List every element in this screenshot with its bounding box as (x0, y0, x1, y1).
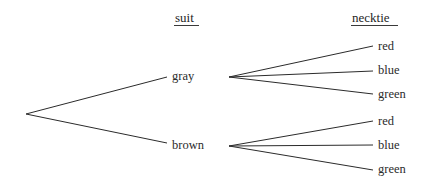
node-label-brown: brown (172, 139, 204, 152)
node-label-gray: gray (172, 70, 194, 83)
edge-root-to-brown (26, 114, 167, 143)
tree-edges (0, 0, 438, 188)
column-header-suit-underline (174, 25, 199, 26)
edge-brown-to-green (229, 146, 373, 170)
edge-brown-to-red (229, 121, 373, 146)
tree-diagram-canvas: suit necktie gray brown red blue green r… (0, 0, 438, 188)
node-label-gray-green: green (378, 88, 406, 101)
node-label-gray-blue: blue (378, 64, 400, 77)
node-label-brown-green: green (378, 163, 406, 176)
node-label-brown-red: red (378, 115, 394, 128)
edge-gray-to-green (229, 77, 373, 94)
edge-brown-to-blue (229, 145, 373, 146)
node-label-brown-blue: blue (378, 139, 400, 152)
column-header-necktie: necktie (352, 11, 390, 25)
column-header-suit: suit (175, 11, 194, 25)
node-label-gray-red: red (378, 40, 394, 53)
column-header-necktie-underline (351, 25, 398, 26)
edge-root-to-gray (26, 77, 167, 114)
